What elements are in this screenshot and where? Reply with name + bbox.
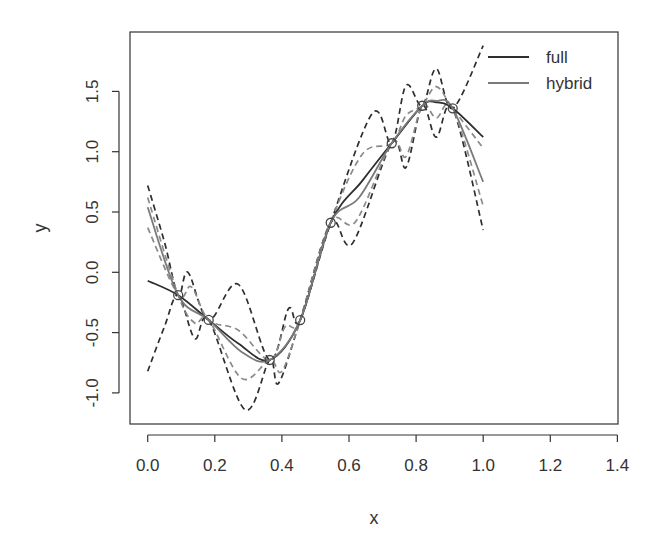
x-tick-label: 0.2 <box>203 456 227 475</box>
series-hybrid-upper-band <box>148 87 484 360</box>
y-tick-label: 0.0 <box>83 260 102 284</box>
chart: 0.00.20.40.60.81.01.21.4 -1.0-0.50.00.51… <box>0 0 662 545</box>
y-tick-label: -1.0 <box>83 378 102 407</box>
x-tick-label: 0.4 <box>270 456 294 475</box>
x-axis: 0.00.20.40.60.81.01.21.4 <box>136 435 629 475</box>
y-tick-label: -0.5 <box>83 318 102 347</box>
plot-frame <box>130 32 618 424</box>
legend-label-full: full <box>546 48 568 67</box>
x-tick-label: 1.4 <box>606 456 630 475</box>
series-layer <box>148 46 484 411</box>
series-full <box>148 101 484 360</box>
y-axis: -1.0-0.50.00.51.01.5 <box>83 80 119 408</box>
legend-label-hybrid: hybrid <box>546 74 592 93</box>
y-tick-label: 1.5 <box>83 80 102 104</box>
legend: full hybrid <box>488 48 592 93</box>
y-axis-title: y <box>30 224 50 233</box>
x-tick-label: 1.2 <box>538 456 562 475</box>
x-tick-label: 0.0 <box>136 456 160 475</box>
x-tick-label: 0.6 <box>337 456 361 475</box>
series-hybrid-lower-band <box>148 104 484 380</box>
x-axis-title: x <box>370 508 379 528</box>
y-tick-label: 1.0 <box>83 140 102 164</box>
series-full-lower-band <box>148 105 484 410</box>
series-hybrid <box>148 100 484 362</box>
y-tick-label: 0.5 <box>83 200 102 224</box>
x-tick-label: 1.0 <box>471 456 495 475</box>
x-tick-label: 0.8 <box>404 456 428 475</box>
